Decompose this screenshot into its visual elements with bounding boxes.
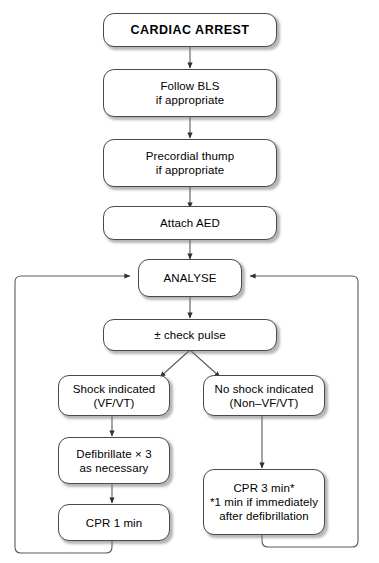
node-cpr-3-min-line3: after defibrillation xyxy=(206,509,322,523)
node-check-pulse-label: ± check pulse xyxy=(150,328,230,342)
node-defibrillate-line1: Defibrillate × 3 xyxy=(72,447,155,461)
flowchart-canvas: CARDIAC ARREST Follow BLS if appropriate… xyxy=(0,0,379,563)
node-analyse[interactable]: ANALYSE xyxy=(138,259,242,297)
node-shock-indicated[interactable]: Shock indicated (VF/VT) xyxy=(58,375,170,416)
node-precordial-thump-line1: Precordial thump xyxy=(142,149,239,163)
node-follow-bls-line2: if appropriate xyxy=(152,93,229,107)
node-attach-aed[interactable]: Attach AED xyxy=(103,206,277,240)
node-shock-indicated-line1: Shock indicated xyxy=(69,382,160,396)
node-attach-aed-label: Attach AED xyxy=(156,216,224,230)
node-no-shock-indicated-line1: No shock indicated xyxy=(211,382,318,396)
node-analyse-label: ANALYSE xyxy=(160,271,221,285)
node-follow-bls[interactable]: Follow BLS if appropriate xyxy=(103,69,277,117)
node-cardiac-arrest[interactable]: CARDIAC ARREST xyxy=(103,13,277,47)
node-no-shock-indicated[interactable]: No shock indicated (Non–VF/VT) xyxy=(203,375,325,416)
node-cpr-3-min-line1: CPR 3 min* xyxy=(206,481,322,495)
node-cpr-3-min[interactable]: CPR 3 min* *1 min if immediately after d… xyxy=(203,469,325,535)
node-check-pulse[interactable]: ± check pulse xyxy=(103,319,277,351)
node-cpr-1-min[interactable]: CPR 1 min xyxy=(58,504,170,541)
node-cardiac-arrest-label: CARDIAC ARREST xyxy=(126,23,253,37)
node-follow-bls-line1: Follow BLS xyxy=(152,79,229,93)
node-shock-indicated-line2: (VF/VT) xyxy=(69,396,160,410)
connector-pulse-to-shock xyxy=(160,350,190,377)
node-defibrillate[interactable]: Defibrillate × 3 as necessary xyxy=(58,437,170,484)
connector-pulse-to-noshock xyxy=(190,350,220,377)
node-cpr-1-min-label: CPR 1 min xyxy=(82,516,147,530)
node-precordial-thump-line2: if appropriate xyxy=(142,163,239,177)
node-precordial-thump[interactable]: Precordial thump if appropriate xyxy=(103,139,277,187)
node-defibrillate-line2: as necessary xyxy=(72,461,155,475)
node-no-shock-indicated-line2: (Non–VF/VT) xyxy=(211,396,318,410)
node-cpr-3-min-line2: *1 min if immediately xyxy=(206,495,322,509)
